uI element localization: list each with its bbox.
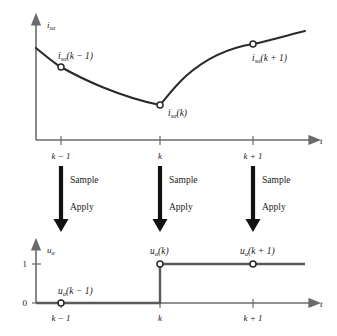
transition-arrow-1-apply-label: Apply — [70, 202, 94, 212]
transition-arrow-1: Sample Apply — [54, 166, 99, 232]
bottom-plot-tick-label-k: k — [158, 313, 163, 323]
transition-arrow-2-apply-label: Apply — [169, 202, 193, 212]
top-plot-point-label-k: isα(k) — [168, 108, 187, 119]
top-plot-marker-k — [157, 102, 163, 108]
transition-arrow-1-sample-label: Sample — [70, 175, 99, 185]
bottom-plot-y-axis-label-sub: α — [52, 249, 56, 256]
bottom-plot-point-label-k-plus-1: uα(k + 1) — [240, 246, 275, 257]
bottom-plot-marker-k-minus-1 — [58, 300, 64, 306]
bottom-plot-y-axis-label: uα — [47, 245, 56, 256]
top-plot-point-label-k-arg: (k) — [176, 108, 187, 119]
bottom-plot-point-label-k-minus-1: uα(k − 1) — [58, 286, 93, 297]
top-plot-tick-label-k-plus-1: k + 1 — [243, 151, 262, 161]
bottom-plot-point-label-k-plus-1-arg: (k + 1) — [248, 246, 274, 257]
transition-arrow-2-head — [153, 219, 168, 232]
top-plot-tick-label-k: k — [158, 151, 163, 161]
top-plot-x-axis-label: t — [320, 136, 323, 146]
transition-arrow-2-sample-label: Sample — [169, 175, 198, 185]
transition-arrow-3-head — [246, 219, 261, 232]
transition-arrows-group: Sample Apply Sample Apply Sample Apply — [54, 166, 291, 232]
bottom-plot-point-label-k-arg: (k) — [158, 246, 169, 257]
bottom-plot-y-tick-label-1: 1 — [23, 259, 28, 269]
transition-arrow-1-head — [54, 219, 69, 232]
transition-arrow-2: Sample Apply — [153, 166, 198, 232]
bottom-plot-point-label-k: uα(k) — [150, 246, 169, 257]
top-plot-y-axis-label-sub: sα — [50, 24, 56, 31]
transition-arrow-3: Sample Apply — [246, 166, 291, 232]
bottom-plot-point-label-k-minus-1-arg: (k − 1) — [66, 286, 92, 297]
bottom-plot-marker-k-plus-1 — [250, 261, 256, 267]
top-plot-point-label-k-minus-1: isα(k − 1) — [58, 51, 93, 62]
timing-diagram-figure: isα t k − 1 k k + 1 isα(k − 1) isα(k) is… — [0, 0, 337, 336]
transition-arrow-3-apply-label: Apply — [262, 202, 286, 212]
bottom-plot: uα t 1 0 k − 1 k k + 1 uα(k − 1) uα(k) u… — [23, 245, 324, 323]
top-plot-current-curve — [36, 31, 305, 105]
top-plot: isα t k − 1 k k + 1 isα(k − 1) isα(k) is… — [36, 20, 323, 161]
top-plot-point-label-k-minus-1-arg: (k − 1) — [66, 51, 92, 62]
top-plot-y-axis-label: isα — [47, 20, 56, 31]
top-plot-marker-k-plus-1 — [250, 41, 256, 47]
bottom-plot-marker-k — [157, 261, 163, 267]
bottom-plot-y-tick-label-0: 0 — [23, 298, 28, 308]
bottom-plot-tick-label-k-minus-1: k − 1 — [51, 313, 70, 323]
transition-arrow-3-sample-label: Sample — [262, 175, 291, 185]
bottom-plot-x-axis-label: t — [320, 299, 323, 309]
bottom-plot-step-waveform — [36, 264, 305, 303]
top-plot-point-label-k-plus-1-arg: (k + 1) — [260, 53, 286, 64]
bottom-plot-tick-label-k-plus-1: k + 1 — [243, 313, 262, 323]
top-plot-marker-k-minus-1 — [58, 64, 64, 70]
top-plot-point-label-k-plus-1: isα(k + 1) — [252, 53, 287, 64]
top-plot-tick-label-k-minus-1: k − 1 — [51, 151, 70, 161]
